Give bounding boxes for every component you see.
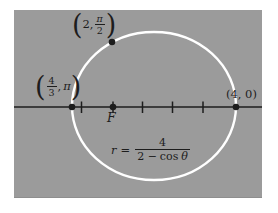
equation-fraction: 4 2 − cos θ bbox=[135, 136, 190, 163]
left-point-label: ( 4 3 , π ) bbox=[35, 73, 81, 100]
fraction-denominator: 2 − cos θ bbox=[135, 150, 190, 163]
left-point-r-fraction: 4 3 bbox=[47, 75, 57, 99]
right-point-text: (4, 0) bbox=[226, 89, 257, 101]
paren-open: ( bbox=[35, 72, 46, 100]
cosine-function: cos bbox=[160, 150, 178, 163]
paren-open: ( bbox=[72, 10, 83, 38]
equals-sign: = bbox=[121, 143, 131, 157]
focus-text: F bbox=[107, 112, 116, 125]
fraction-numerator: 4 bbox=[157, 136, 168, 149]
fraction-numerator: π bbox=[95, 13, 105, 24]
paren-close: ) bbox=[71, 72, 82, 100]
top-point-label: ( 2, π 2 ) bbox=[72, 11, 116, 38]
right-point-label: (4, 0) bbox=[226, 89, 257, 101]
left-vertex-dot bbox=[69, 104, 76, 111]
fraction-denominator: 2 bbox=[95, 25, 105, 36]
fraction-numerator: 4 bbox=[47, 75, 57, 86]
top-point-theta-fraction: π 2 bbox=[95, 13, 105, 37]
diagram-canvas bbox=[14, 10, 262, 198]
fraction-denominator: 3 bbox=[47, 87, 57, 98]
left-point-theta: π bbox=[63, 81, 71, 93]
paren-close: ) bbox=[106, 10, 117, 38]
right-vertex-dot bbox=[233, 104, 240, 111]
denominator-constant: 2 − bbox=[137, 150, 157, 163]
theta-variable: θ bbox=[181, 150, 188, 163]
equation-lhs: r bbox=[111, 143, 117, 157]
focus-label: F bbox=[107, 112, 116, 125]
polar-equation: r = 4 2 − cos θ bbox=[111, 136, 191, 163]
figure-page: ( 2, π 2 ) ( 4 3 , π ) (4, 0) bbox=[0, 0, 278, 213]
diagram-panel: ( 2, π 2 ) ( 4 3 , π ) (4, 0) bbox=[14, 10, 262, 198]
top-point-r: 2, bbox=[83, 19, 94, 31]
comma: , bbox=[58, 81, 62, 93]
